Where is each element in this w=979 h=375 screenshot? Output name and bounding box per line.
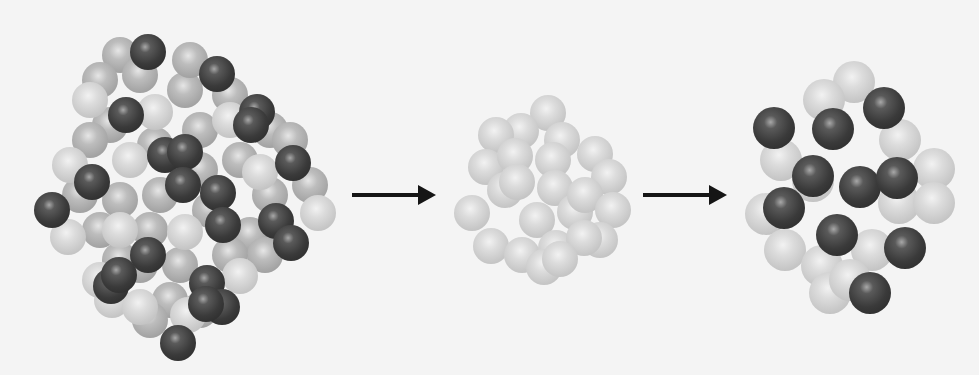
dark-atom-sphere — [792, 155, 834, 197]
light-atom-sphere — [764, 229, 806, 271]
dark-atom-sphere — [849, 272, 891, 314]
light-atom-sphere — [499, 164, 535, 200]
dark-atom-sphere — [876, 157, 918, 199]
light-atom-sphere — [122, 289, 158, 325]
dark-atom-sphere — [74, 164, 110, 200]
dark-atom-sphere — [34, 192, 70, 228]
dark-atom-sphere — [167, 134, 203, 170]
dark-atom-sphere — [275, 145, 311, 181]
dark-atom-sphere — [884, 227, 926, 269]
dark-atom-sphere — [753, 107, 795, 149]
light-atom-sphere — [454, 195, 490, 231]
cluster-diagram — [0, 0, 979, 375]
dark-atom-sphere — [200, 175, 236, 211]
dark-atom-sphere — [816, 214, 858, 256]
dark-atom-sphere — [763, 187, 805, 229]
right-arrow-icon — [643, 193, 713, 197]
dark-atom-sphere — [108, 97, 144, 133]
dark-atom-sphere — [160, 325, 196, 361]
dark-atom-sphere — [205, 207, 241, 243]
dark-atom-sphere — [273, 225, 309, 261]
light-atom-sphere — [167, 214, 203, 250]
light-atom-sphere — [72, 82, 108, 118]
dark-atom-sphere — [863, 87, 905, 129]
light-atom-sphere — [913, 182, 955, 224]
dark-atom-sphere — [233, 107, 269, 143]
dark-atom-sphere — [839, 166, 881, 208]
right-arrow-icon — [352, 193, 422, 197]
dark-atom-sphere — [101, 257, 137, 293]
light-atom-sphere — [112, 142, 148, 178]
dark-atom-sphere — [812, 108, 854, 150]
light-atom-sphere — [102, 212, 138, 248]
light-atom-sphere — [222, 258, 258, 294]
dark-atom-sphere — [188, 286, 224, 322]
dark-atom-sphere — [199, 56, 235, 92]
light-atom-sphere — [542, 241, 578, 277]
light-atom-sphere — [242, 154, 278, 190]
dark-atom-sphere — [165, 167, 201, 203]
light-atom-sphere — [300, 195, 336, 231]
dark-atom-sphere — [130, 34, 166, 70]
